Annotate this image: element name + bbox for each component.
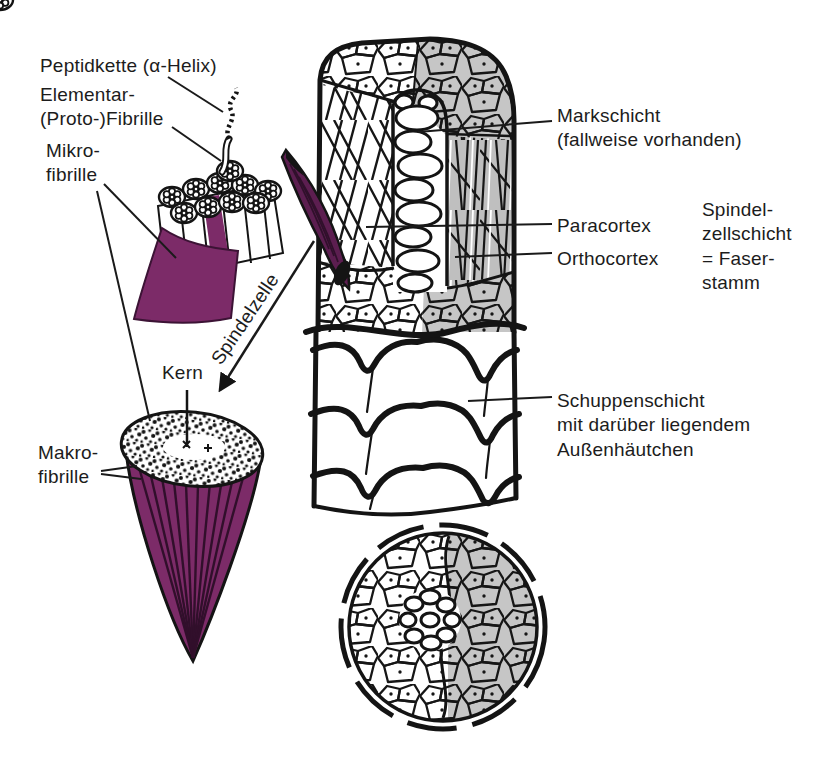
markschicht-label: Markschicht (fallweise vorhanden) <box>557 104 742 153</box>
microfibril-bundle <box>0 0 283 323</box>
kern-label: Kern <box>162 361 203 385</box>
cuticle-scale-layer <box>306 324 524 515</box>
cross-section-medulla-ovals <box>400 590 460 650</box>
schuppenschicht-label: Schuppenschicht mit darüber liegendem Au… <box>557 389 750 462</box>
orthocortex-label: Orthocortex <box>557 247 658 271</box>
elementar-fibrille-label: Elementar- (Proto-)Fibrille <box>40 83 164 132</box>
orthocortex-strand-region <box>447 134 514 288</box>
wool-fiber-structure-figure: Peptidkette (α-Helix) Elementar- (Proto-… <box>0 0 825 766</box>
peptidkette-leader <box>168 77 223 112</box>
protofibril-strand <box>222 139 229 172</box>
cone-nucleus-patch <box>163 434 225 460</box>
peptidkette-label: Peptidkette (α-Helix) <box>40 54 217 78</box>
mikro-fibrille-label: Mikro- fibrille <box>46 139 100 188</box>
spindelzellschicht-label: Spindel- zellschicht = Faser- stamm <box>702 198 792 295</box>
peptide-chain-helix <box>227 88 236 139</box>
paracortex-label: Paracortex <box>557 214 651 238</box>
elementar-fibrille-leader <box>172 127 221 161</box>
makro-fibrille-label: Makro- fibrille <box>38 441 98 490</box>
fiber-stem-cortex-section <box>318 39 514 334</box>
scale-section-bg <box>314 332 516 514</box>
cross-section-orthocortex-half <box>448 533 548 723</box>
fiber-cross-section-circle <box>328 512 558 742</box>
spindle-cell-cone <box>118 390 267 661</box>
